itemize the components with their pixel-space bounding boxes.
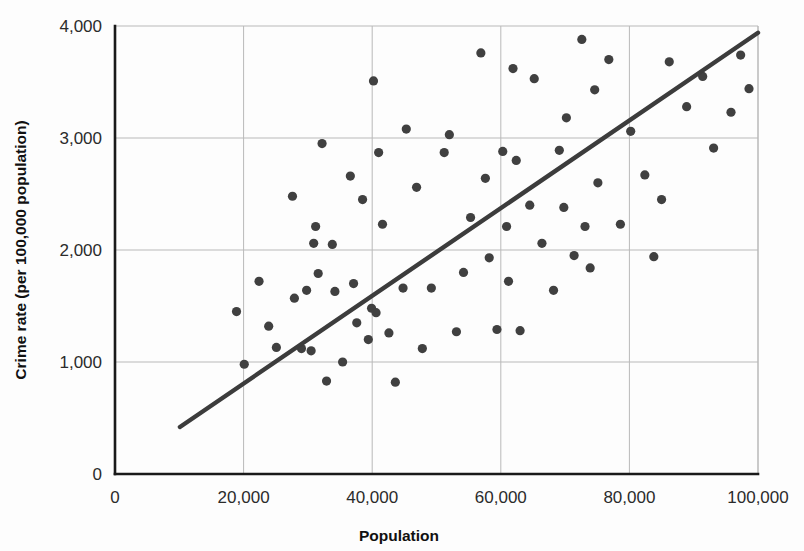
- scatter-point: [328, 240, 337, 249]
- scatter-point: [616, 220, 625, 229]
- scatter-point: [369, 76, 378, 85]
- x-tick-label: 60,000: [475, 488, 527, 507]
- scatter-point: [290, 294, 299, 303]
- scatter-point: [508, 64, 517, 73]
- scatter-point: [570, 251, 579, 260]
- scatter-point: [744, 84, 753, 93]
- x-tick-label: 100,000: [727, 488, 788, 507]
- x-tick-label: 0: [110, 488, 119, 507]
- scatter-point: [525, 201, 534, 210]
- scatter-point: [445, 130, 454, 139]
- scatter-point: [577, 35, 586, 44]
- scatter-point: [314, 269, 323, 278]
- scatter-point: [358, 195, 367, 204]
- scatter-point: [346, 171, 355, 180]
- scatter-point: [309, 239, 318, 248]
- scatter-point: [466, 213, 475, 222]
- x-tick-label: 40,000: [346, 488, 398, 507]
- scatter-point: [264, 322, 273, 331]
- x-tick-label: 80,000: [603, 488, 655, 507]
- scatter-point: [476, 48, 485, 57]
- scatter-point: [498, 147, 507, 156]
- scatter-point: [485, 253, 494, 262]
- scatter-point: [555, 146, 564, 155]
- scatter-point: [626, 127, 635, 136]
- scatter-point: [504, 277, 513, 286]
- scatter-point: [481, 174, 490, 183]
- x-tick-label: 20,000: [218, 488, 270, 507]
- scatter-point: [412, 183, 421, 192]
- x-axis-tick-labels: 020,00040,00060,00080,000100,000: [110, 488, 788, 507]
- scatter-point: [352, 318, 361, 327]
- scatter-point: [604, 55, 613, 64]
- scatter-point: [371, 308, 380, 317]
- scatter-point: [580, 222, 589, 231]
- scatter-point: [726, 108, 735, 117]
- scatter-point: [502, 222, 511, 231]
- scatter-point: [302, 286, 311, 295]
- scatter-point: [590, 85, 599, 94]
- scatter-point: [378, 220, 387, 229]
- scatter-point: [665, 57, 674, 66]
- scatter-point: [364, 335, 373, 344]
- scatter-point: [657, 195, 666, 204]
- scatter-point: [330, 287, 339, 296]
- x-axis-title: Population: [359, 527, 439, 544]
- y-axis-tick-labels: 01,0002,0003,0004,000: [59, 17, 102, 484]
- scatter-point: [562, 113, 571, 122]
- scatter-point: [593, 178, 602, 187]
- scatter-point: [317, 139, 326, 148]
- y-tick-label: 2,000: [59, 241, 102, 260]
- scatter-point: [440, 148, 449, 157]
- trend-line: [180, 33, 758, 427]
- scatter-point: [640, 170, 649, 179]
- scatter-point: [418, 344, 427, 353]
- scatter-point: [384, 328, 393, 337]
- y-tick-label: 1,000: [59, 353, 102, 372]
- scatter-point: [586, 263, 595, 272]
- scatter-point: [709, 143, 718, 152]
- scatter-point: [288, 192, 297, 201]
- scatter-point: [682, 102, 691, 111]
- scatter-point: [338, 357, 347, 366]
- y-tick-label: 4,000: [59, 17, 102, 36]
- scatter-point: [311, 222, 320, 231]
- y-axis-title: Crime rate (per 100,000 population): [12, 120, 29, 379]
- scatter-point: [515, 326, 524, 335]
- scatter-point: [240, 360, 249, 369]
- scatter-point: [492, 325, 501, 334]
- scatter-point: [452, 327, 461, 336]
- scatter-point: [349, 279, 358, 288]
- scatter-point: [254, 277, 263, 286]
- scatter-point: [307, 346, 316, 355]
- scatter-point: [537, 239, 546, 248]
- chart-figure: 020,00040,00060,00080,000100,000 01,0002…: [0, 0, 804, 551]
- scatter-point: [559, 203, 568, 212]
- scatter-point: [459, 268, 468, 277]
- scatter-plot: 020,00040,00060,00080,000100,000 01,0002…: [0, 0, 804, 551]
- scatter-point: [549, 286, 558, 295]
- scatter-point: [391, 378, 400, 387]
- scatter-point: [649, 252, 658, 261]
- scatter-point: [736, 51, 745, 60]
- scatter-point: [322, 376, 331, 385]
- scatter-point: [512, 156, 521, 165]
- scatter-point: [398, 283, 407, 292]
- regression-line: [180, 33, 758, 427]
- scatter-point: [232, 307, 241, 316]
- y-tick-label: 0: [93, 465, 102, 484]
- scatter-point: [402, 124, 411, 133]
- scatter-point: [374, 148, 383, 157]
- scatter-point: [530, 74, 539, 83]
- scatter-point: [272, 343, 281, 352]
- y-tick-label: 3,000: [59, 129, 102, 148]
- scatter-point: [427, 283, 436, 292]
